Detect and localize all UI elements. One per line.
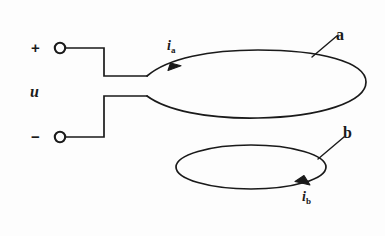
negative-lead-wire (66, 96, 147, 137)
positive-lead-wire (66, 48, 147, 76)
current-b-label: ib (302, 190, 311, 204)
negative-terminal-icon (55, 132, 65, 142)
loop-b-label: b (343, 125, 352, 141)
circuit-drawing (0, 0, 385, 236)
leader-line-b (318, 137, 344, 159)
loop-a-label: a (336, 27, 344, 43)
figure-canvas: + − u a b ia ib (0, 0, 385, 236)
current-b-subscript: b (306, 196, 311, 206)
positive-sign-label: + (31, 40, 40, 55)
current-a-arrowhead-icon (168, 63, 181, 71)
positive-terminal-icon (55, 43, 65, 53)
negative-sign-label: − (31, 129, 40, 144)
loop-a-outline (147, 50, 366, 118)
current-a-label: ia (167, 39, 175, 53)
current-a-subscript: a (171, 45, 176, 55)
leader-line-a (312, 35, 338, 57)
voltage-label-u: u (30, 84, 39, 100)
